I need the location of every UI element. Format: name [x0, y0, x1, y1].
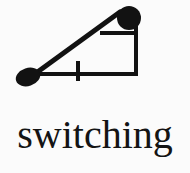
figure-page: switching	[0, 0, 190, 173]
top-right-node-circle	[117, 6, 141, 30]
caption-label: switching	[17, 112, 173, 158]
diagram-figure	[0, 0, 190, 110]
left-blob-ellipse	[13, 65, 42, 90]
diagram-canvas	[0, 0, 190, 110]
figure-caption: switching	[0, 110, 190, 173]
